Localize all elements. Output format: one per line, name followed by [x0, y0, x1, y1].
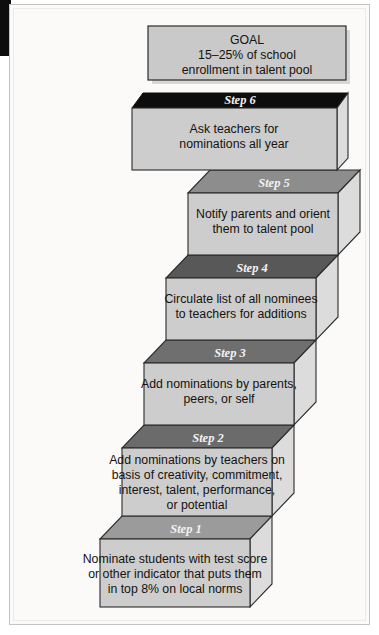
step-3[interactable]: Step 3 Add nominations by parents, peers… [141, 340, 316, 425]
step-1-line-3: in top 8% on local norms [108, 582, 243, 596]
step-2-label: Step 2 [192, 431, 224, 445]
step-4-line-1: Circulate list of all nominees [164, 292, 317, 306]
step-4-line-2: to teachers for additions [175, 307, 306, 321]
step-1[interactable]: Step 1 Nominate students with test score… [83, 516, 272, 607]
goal-line-2: 15–25% of school [198, 48, 296, 62]
step-2-line-1: Add nominations by teachers on [109, 453, 285, 467]
step-6[interactable]: Step 6 Ask teachers for nominations all … [132, 93, 348, 170]
step-2[interactable]: Step 2 Add nominations by teachers on ba… [109, 425, 294, 516]
step-2-line-2: basis of creativity, commitment, [112, 468, 283, 482]
step-1-line-2: or other indicator that puts them [88, 567, 262, 581]
step-5-label: Step 5 [258, 176, 290, 190]
step-5-line-1: Notify parents and orient [196, 207, 331, 221]
step-5-line-2: them to talent pool [212, 222, 313, 236]
step-2-line-3: interest, talent, performance, [119, 483, 276, 497]
step-3-line-2: peers, or self [183, 392, 255, 406]
step-6-line-1: Ask teachers for [190, 122, 279, 136]
goal-box: GOAL 15–25% of school enrollment in tale… [148, 26, 350, 84]
step-2-line-4: or potential [167, 498, 228, 512]
goal-line-1: GOAL [230, 33, 264, 47]
step-4[interactable]: Step 4 Circulate list of all nominees to… [164, 255, 338, 340]
step-1-label: Step 1 [170, 522, 202, 536]
step-4-label: Step 4 [236, 261, 268, 275]
step-1-line-1: Nominate students with test score [83, 552, 268, 566]
diagram-canvas: GOAL 15–25% of school enrollment in tale… [0, 0, 379, 635]
staircase-diagram: GOAL 15–25% of school enrollment in tale… [0, 0, 379, 635]
step-6-label: Step 6 [224, 93, 256, 107]
step-5[interactable]: Step 5 Notify parents and orient them to… [188, 170, 360, 255]
screenshot-root: GOAL 15–25% of school enrollment in tale… [0, 0, 379, 635]
step-3-line-1: Add nominations by parents, [141, 377, 297, 391]
step-6-line-2: nominations all year [179, 137, 288, 151]
step-3-label: Step 3 [214, 346, 246, 360]
goal-line-3: enrollment in talent pool [182, 63, 313, 77]
